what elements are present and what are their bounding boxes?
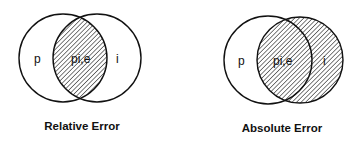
caption-absolute-error: Absolute Error: [242, 122, 323, 134]
label-p: p: [34, 52, 41, 66]
absolute-error-diagram: p pi,e i Absolute Error: [224, 16, 343, 134]
label-i: i: [323, 54, 326, 68]
caption-relative-error: Relative Error: [44, 120, 120, 132]
label-p: p: [238, 54, 245, 68]
venn-diagrams: p pi,e i Relative Error p pi,e i Absolut…: [0, 0, 352, 142]
label-pie: pi,e: [71, 52, 91, 66]
label-pie: pi,e: [273, 54, 293, 68]
relative-error-diagram: p pi,e i Relative Error: [19, 14, 141, 132]
label-i: i: [116, 52, 119, 66]
